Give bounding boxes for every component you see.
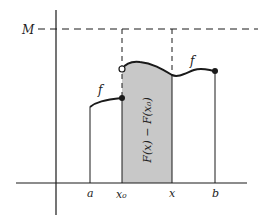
tick-label-x0: x₀ [116, 188, 127, 201]
area-function-diagram: M f f F(x) − F(x₀) a x₀ x b [0, 0, 267, 221]
function-curve-left [90, 98, 122, 107]
closed-point-b [212, 68, 218, 74]
closed-point-x0 [119, 95, 125, 101]
label-f-right: f [189, 54, 197, 68]
tick-label-b: b [212, 187, 219, 200]
tick-label-a: a [87, 187, 94, 200]
open-point-x0 [119, 66, 125, 72]
tick-label-x: x [169, 187, 176, 200]
label-region: F(x) − F(x₀) [141, 97, 154, 163]
label-m: M [21, 23, 35, 37]
label-f-left: f [97, 83, 105, 97]
